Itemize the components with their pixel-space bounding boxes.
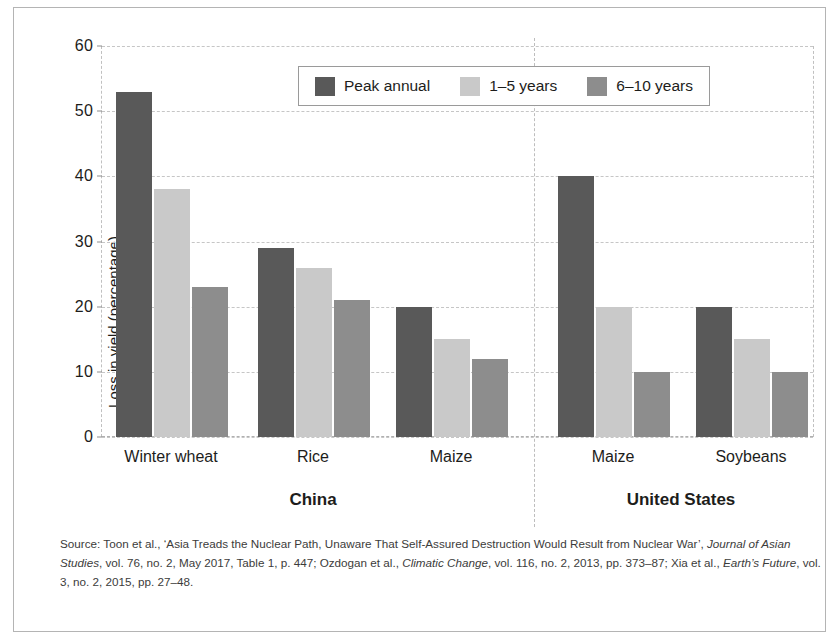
source-journal-2: Climatic Change (402, 556, 488, 569)
chart-legend: Peak annual 1–5 years 6–10 years (298, 66, 710, 106)
group-label: United States (627, 490, 736, 510)
y-tick-label: 30 (75, 233, 93, 251)
bar (596, 307, 632, 437)
bar (734, 339, 770, 437)
y-tick-label: 40 (75, 167, 93, 185)
bar (258, 248, 294, 437)
bar (634, 372, 670, 437)
legend-label: 1–5 years (489, 77, 557, 95)
legend-label: Peak annual (344, 77, 430, 95)
legend-swatch-peak-annual (315, 77, 335, 96)
bar-group (696, 46, 808, 437)
source-journal-3: Earth’s Future (723, 556, 796, 569)
y-tick-label: 60 (75, 37, 93, 55)
legend-swatch-1-5-years (460, 77, 480, 96)
source-mid-1: , vol. 76, no. 2, May 2017, Table 1, p. … (99, 556, 402, 569)
bar (434, 339, 470, 437)
bar (116, 92, 152, 437)
legend-item: Peak annual (315, 77, 430, 96)
x-axis-category-label: Maize (430, 448, 473, 466)
chart-figure: Loss in yield (percentage) 0102030405060… (0, 0, 840, 644)
bar (296, 268, 332, 437)
bar (696, 307, 732, 437)
bar (334, 300, 370, 437)
source-mid-2: , vol. 116, no. 2, 2013, pp. 373–87; Xia… (488, 556, 723, 569)
source-prefix: Source: Toon et al., ‘Asia Treads the Nu… (60, 537, 707, 550)
bar (472, 359, 508, 437)
bar (192, 287, 228, 437)
group-label: China (289, 490, 336, 510)
legend-label: 6–10 years (616, 77, 693, 95)
y-tick-label: 0 (84, 428, 93, 446)
bar (772, 372, 808, 437)
legend-item: 1–5 years (460, 77, 557, 96)
legend-swatch-6-10-years (587, 77, 607, 96)
y-tick-label: 10 (75, 363, 93, 381)
bar-group (116, 46, 228, 437)
group-divider (534, 38, 535, 527)
x-axis-category-label: Rice (297, 448, 329, 466)
x-axis-category-label: Winter wheat (124, 448, 217, 466)
legend-item: 6–10 years (587, 77, 693, 96)
bar (154, 189, 190, 437)
source-note: Source: Toon et al., ‘Asia Treads the Nu… (60, 535, 822, 592)
bar (396, 307, 432, 437)
gridline (102, 437, 813, 438)
y-tick-label: 20 (75, 298, 93, 316)
x-axis-category-label: Maize (592, 448, 635, 466)
x-axis-category-label: Soybeans (715, 448, 786, 466)
bar (558, 176, 594, 437)
y-tick-label: 50 (75, 102, 93, 120)
